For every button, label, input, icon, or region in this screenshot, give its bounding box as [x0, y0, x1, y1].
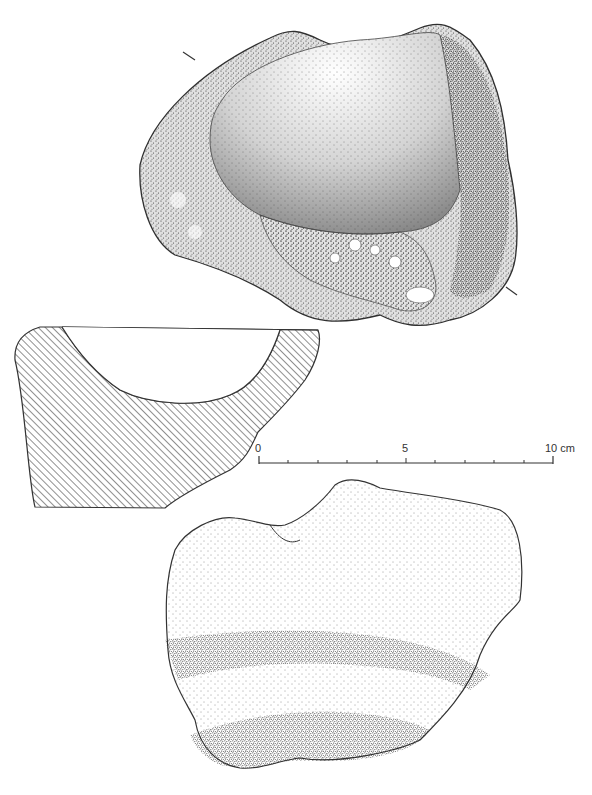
- scale-label-0: 0: [255, 442, 261, 454]
- scale-label-5: 5: [402, 442, 408, 454]
- top-view: [140, 24, 517, 325]
- section-mark-right: [506, 287, 517, 295]
- side-view: [165, 480, 522, 768]
- section-mark-left: [183, 52, 195, 60]
- scale-bar: [259, 456, 553, 464]
- scale-label-10cm: 10 cm: [545, 442, 575, 454]
- artifact-drawing: [0, 0, 592, 795]
- cross-section: [15, 327, 320, 508]
